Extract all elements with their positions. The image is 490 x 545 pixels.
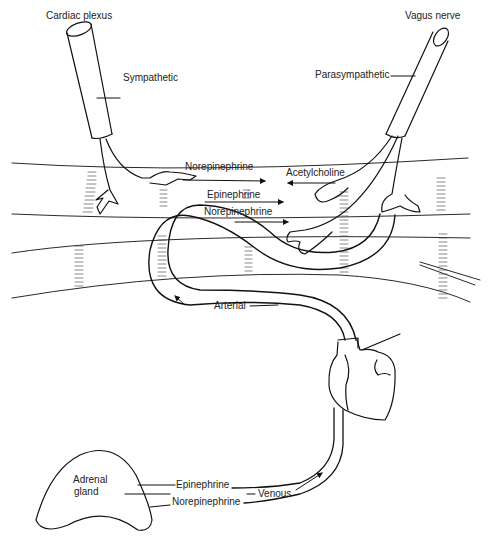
label-norepinephrine-adrenal: Norepinephrine bbox=[172, 497, 240, 507]
label-arterial: Arterial bbox=[214, 301, 246, 311]
label-acetylcholine: Acetylcholine bbox=[286, 168, 345, 178]
sympathetic-nerve bbox=[65, 19, 196, 214]
parasympathetic-nerve bbox=[287, 25, 452, 254]
arrow-norepinephrine-neural bbox=[183, 180, 265, 181]
label-cardiac-plexus: Cardiac plexus bbox=[46, 11, 112, 21]
label-norepinephrine-blood: Norepinephrine bbox=[204, 207, 272, 217]
label-norepinephrine-neural: Norepinephrine bbox=[185, 162, 253, 172]
diagram-canvas bbox=[0, 0, 490, 545]
artery bbox=[149, 205, 395, 340]
tissue-bands bbox=[12, 158, 480, 302]
label-gland: gland bbox=[74, 487, 98, 497]
arterial-leader bbox=[250, 305, 278, 306]
label-epinephrine-adrenal: Epinephrine bbox=[176, 480, 229, 490]
arrows bbox=[175, 180, 335, 494]
heart bbox=[329, 334, 400, 420]
label-vagus-nerve: Vagus nerve bbox=[405, 11, 460, 21]
label-epinephrine-blood: Epinephrine bbox=[207, 190, 260, 200]
striations bbox=[75, 172, 447, 298]
label-venous: Venous bbox=[258, 489, 291, 499]
label-sympathetic: Sympathetic bbox=[123, 73, 178, 83]
label-parasympathetic: Parasympathetic bbox=[315, 70, 389, 80]
adrenal-gland bbox=[36, 451, 175, 531]
label-adrenal: Adrenal bbox=[73, 475, 107, 485]
arrow-venous bbox=[296, 473, 322, 490]
